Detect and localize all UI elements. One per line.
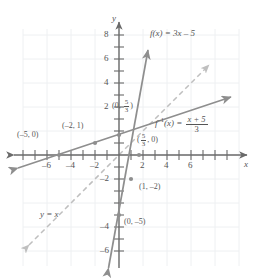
point-label-1-neg2: (1, –2) bbox=[139, 183, 160, 191]
point-0-5over3 bbox=[117, 133, 121, 137]
line-label-y-equals-x: y = x bbox=[40, 210, 59, 219]
point-label-5over3-0: (53, 0) bbox=[137, 133, 158, 148]
y-axis-label: y bbox=[112, 14, 116, 23]
point-fraction-5-3: 53 bbox=[124, 99, 130, 114]
fraction-denominator: 3 bbox=[186, 125, 208, 134]
point-label-close: ) bbox=[130, 101, 133, 110]
coordinate-plane bbox=[0, 0, 261, 279]
f-inverse-fraction: x + 53 bbox=[186, 115, 208, 134]
x-axis-label: x bbox=[244, 160, 248, 169]
point-label-0-5over3: (0, 53) bbox=[112, 99, 133, 114]
point-label-neg5-0: (–5, 0) bbox=[17, 131, 38, 139]
function-label-f-inverse: f–1(x) = x + 53 bbox=[155, 115, 209, 134]
y-tick-label-neg4: –4 bbox=[100, 222, 109, 231]
point-1-neg2 bbox=[129, 177, 133, 181]
y-tick-label-6: 6 bbox=[104, 54, 109, 63]
point-neg2-1 bbox=[93, 141, 97, 145]
fraction-denominator: 3 bbox=[141, 141, 147, 148]
x-tick-label-6: 6 bbox=[188, 161, 193, 170]
x-tick-label-neg2: –2 bbox=[90, 161, 99, 170]
point-fraction-5-3: 53 bbox=[141, 133, 147, 148]
point-neg5-0 bbox=[57, 153, 61, 157]
x-tick-label-2: 2 bbox=[140, 161, 145, 170]
fraction-denominator: 3 bbox=[124, 107, 130, 114]
x-tick-label-4: 4 bbox=[164, 161, 169, 170]
point-0-neg5 bbox=[117, 213, 121, 217]
y-tick-label-neg2: –2 bbox=[100, 174, 109, 183]
point-label-0-neg5: (0, –5) bbox=[124, 218, 145, 226]
x-tick-label-neg6: –6 bbox=[42, 161, 51, 170]
y-tick-label-2: 2 bbox=[104, 102, 109, 111]
function-label-f: f(x) = 3x – 5 bbox=[150, 29, 195, 38]
point-label-neg2-1: (–2, 1) bbox=[62, 122, 83, 130]
y-tick-label-4: 4 bbox=[104, 78, 109, 87]
point-label-close: , 0) bbox=[147, 135, 158, 144]
point-label-open: (0, bbox=[112, 101, 123, 110]
y-tick-label-8: 8 bbox=[104, 30, 109, 39]
f-inverse-arg: (x) = bbox=[164, 118, 185, 128]
point-label-open: ( bbox=[137, 135, 140, 144]
graph-figure: x y –6 –4 –2 2 4 6 8 6 4 2 –2 –4 –6 f(x)… bbox=[0, 0, 261, 279]
x-tick-label-neg4: –4 bbox=[66, 161, 75, 170]
point-5over3-0 bbox=[137, 153, 141, 157]
y-tick-label-neg6: –6 bbox=[100, 246, 109, 255]
